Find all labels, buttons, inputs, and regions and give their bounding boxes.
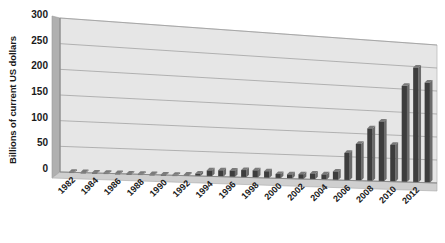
- bar-front-face: [425, 83, 430, 183]
- y-tick-label-150: 150: [31, 86, 48, 97]
- bar-front-face: [310, 174, 315, 180]
- bar-front-face: [276, 174, 281, 178]
- y-tick-label-50: 50: [37, 137, 49, 148]
- bar-2013: [425, 80, 433, 183]
- bar-front-face: [379, 121, 384, 181]
- bar-front-face: [253, 170, 258, 177]
- y-tick-label-300: 300: [31, 9, 48, 20]
- bar-2008: [367, 126, 375, 181]
- bar-front-face: [207, 170, 212, 176]
- y-tick-label-0: 0: [42, 163, 48, 174]
- bar-2005: [333, 169, 341, 180]
- bar-2010: [390, 142, 398, 181]
- bar-front-face: [321, 174, 326, 179]
- bar-front-face: [367, 128, 372, 181]
- bar-2011: [402, 83, 410, 182]
- bar-2007: [356, 141, 364, 180]
- bar-front-face: [264, 171, 269, 178]
- bar-front-face: [218, 170, 223, 176]
- y-tick-label-200: 200: [31, 60, 48, 71]
- bar-front-face: [230, 171, 235, 177]
- plot-left-wall: [52, 16, 60, 178]
- bar-side-face: [418, 65, 421, 182]
- bar-front-face: [413, 68, 418, 183]
- bar-front-face: [333, 172, 338, 181]
- bar-front-face: [344, 153, 349, 180]
- bar-side-face: [384, 119, 387, 181]
- bar-front-face: [287, 174, 292, 178]
- bar-front-face: [390, 145, 395, 182]
- bar-front-face: [241, 170, 246, 177]
- chart-container: 050100150200250300 198219841986198819901…: [0, 0, 445, 243]
- bar-front-face: [356, 144, 361, 181]
- y-axis-title: Billions of current US dollars: [7, 36, 18, 164]
- bar-side-face: [395, 142, 398, 181]
- bar-side-face: [350, 150, 353, 180]
- bar-front-face: [402, 86, 407, 182]
- bar-front-face: [298, 174, 303, 179]
- bar-1997: [241, 167, 249, 177]
- bar-side-face: [407, 83, 410, 182]
- bar-2012: [413, 65, 421, 182]
- y-tick-label-100: 100: [31, 112, 48, 123]
- bar-chart: 050100150200250300 198219841986198819901…: [0, 0, 445, 243]
- bar-side-face: [430, 80, 433, 183]
- bar-2009: [379, 119, 387, 181]
- bar-2006: [344, 150, 352, 180]
- bar-1998: [253, 168, 261, 178]
- y-tick-label-250: 250: [31, 35, 48, 46]
- bar-side-face: [361, 141, 364, 180]
- bar-side-face: [373, 126, 376, 181]
